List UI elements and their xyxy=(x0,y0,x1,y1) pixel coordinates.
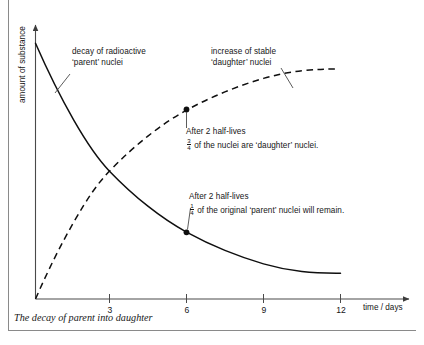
fraction-denominator: 4 xyxy=(187,145,191,151)
marker-parent-two-half-lives xyxy=(184,229,190,235)
decay-figure: amount of substance time / days 3 6 9 12… xyxy=(0,0,424,345)
annotation-parent-curve: decay of radioactive ‘parent’ nuclei xyxy=(72,47,146,68)
annotation-daughter-point-line1: After 2 half-lives xyxy=(186,127,318,138)
daughter-growth-curve xyxy=(36,69,336,299)
x-tick-label-12: 12 xyxy=(331,305,351,315)
figure-caption: The decay of parent into daughter xyxy=(14,312,153,323)
annotation-daughter-point: After 2 half-lives 34 of the nuclei are … xyxy=(186,127,318,152)
y-axis-label: amount of substance xyxy=(18,10,27,120)
annotation-parent-curve-line1: decay of radioactive xyxy=(72,47,146,58)
annotation-parent-point-text: of the original ‘parent’ nuclei will rem… xyxy=(197,206,344,215)
annotation-daughter-point-text: of the nuclei are ‘daughter’ nuclei. xyxy=(194,141,318,150)
annotation-daughter-curve-line2: ‘daughter’ nuclei xyxy=(211,58,276,69)
parent-decay-curve xyxy=(36,43,341,273)
annotation-parent-point: After 2 half-lives 14 of the original ‘p… xyxy=(189,192,344,217)
annotation-daughter-curve-line1: increase of stable xyxy=(211,47,276,58)
annotation-parent-point-line2: 14 of the original ‘parent’ nuclei will … xyxy=(189,203,344,217)
annotation-daughter-point-line2: 34 of the nuclei are ‘daughter’ nuclei. xyxy=(186,138,318,152)
annotation-parent-point-line1: After 2 half-lives xyxy=(189,192,344,203)
leader-daughter-label xyxy=(281,68,293,88)
x-tick-label-6: 6 xyxy=(177,305,197,315)
annotation-daughter-curve: increase of stable ‘daughter’ nuclei xyxy=(211,47,276,68)
fraction-three-quarters: 34 xyxy=(187,138,191,151)
fraction-denominator: 4 xyxy=(190,210,194,216)
leader-parent-label xyxy=(55,74,70,93)
annotation-parent-curve-line2: ‘parent’ nuclei xyxy=(72,58,146,69)
fraction-one-quarter: 14 xyxy=(190,203,194,216)
marker-daughter-two-half-lives xyxy=(184,107,190,113)
x-tick-label-9: 9 xyxy=(254,305,274,315)
x-axis-label: time / days xyxy=(363,303,403,312)
